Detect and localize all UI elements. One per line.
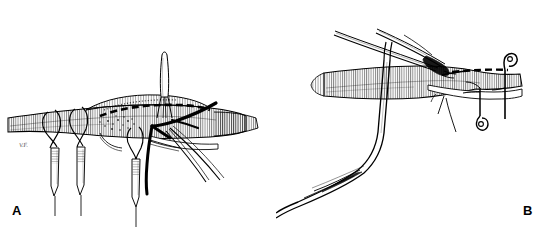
panel-label-b: B — [523, 204, 532, 217]
hemostat-clamp-1 — [51, 148, 59, 216]
figure-root: V.F. A — [0, 0, 552, 229]
panel-a: V.F. A — [0, 0, 276, 229]
panel-a-illustration — [0, 0, 276, 229]
vessel — [311, 66, 522, 99]
hemostat-clamp-2 — [77, 147, 85, 216]
artist-signature-a: V.F. — [19, 142, 28, 149]
hemostat-clamp-3 — [132, 159, 140, 227]
panel-label-a: A — [12, 204, 21, 217]
suture-tail — [431, 94, 456, 132]
vessel — [8, 95, 258, 150]
panel-b: V.F. B — [276, 0, 552, 229]
panel-b-illustration — [276, 0, 552, 229]
